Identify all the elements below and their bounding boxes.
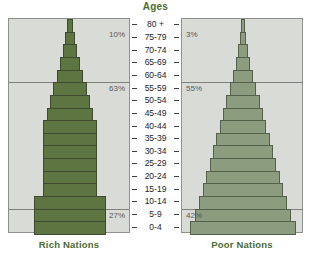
age-label-row: 75-79 bbox=[131, 31, 180, 43]
chart-title: Ages bbox=[0, 1, 311, 12]
bar-rich-10-14 bbox=[34, 196, 106, 210]
age-label-row: 65-69 bbox=[131, 56, 180, 68]
bar-poor-45-49 bbox=[223, 108, 263, 122]
caption-poor-nations: Poor Nations bbox=[181, 239, 303, 250]
bar-poor-25-29 bbox=[210, 158, 276, 172]
age-label-row: 10-14 bbox=[131, 195, 180, 207]
bar-rich-45-49 bbox=[47, 108, 94, 122]
bar-rich-15-19 bbox=[43, 183, 96, 197]
axis-tick-left bbox=[132, 126, 137, 127]
bar-rich-80 bbox=[67, 19, 73, 33]
bar-rich-75-79 bbox=[65, 32, 75, 46]
axis-tick-left bbox=[132, 75, 137, 76]
age-label: 10-14 bbox=[145, 196, 167, 206]
axis-tick-right bbox=[174, 214, 179, 215]
bar-poor-50-54 bbox=[226, 95, 259, 109]
bar-rich-35-39 bbox=[43, 133, 96, 147]
axis-tick-left bbox=[132, 189, 137, 190]
axis-tick-right bbox=[174, 88, 179, 89]
bar-rich-40-44 bbox=[43, 120, 96, 134]
percent-label-rich-top: 10% bbox=[109, 30, 125, 39]
axis-tick-right bbox=[174, 151, 179, 152]
age-label: 80 + bbox=[147, 19, 164, 29]
bar-poor-55-59 bbox=[230, 82, 257, 96]
population-pyramid-figure: Ages 10% 63% 27% 80 +75-7970-7465-6960-6… bbox=[0, 0, 311, 263]
axis-tick-right bbox=[174, 189, 179, 190]
axis-tick-left bbox=[132, 88, 137, 89]
age-label-row: 70-74 bbox=[131, 44, 180, 56]
bar-poor-65-69 bbox=[236, 57, 251, 71]
age-label: 35-39 bbox=[145, 133, 167, 143]
bar-poor-70-74 bbox=[238, 44, 248, 58]
bar-rich-65-69 bbox=[60, 57, 80, 71]
bar-poor-5-9 bbox=[195, 209, 291, 223]
age-label-row: 60-64 bbox=[131, 69, 180, 81]
age-label: 0-4 bbox=[149, 222, 161, 232]
bar-poor-60-64 bbox=[233, 70, 253, 84]
age-label: 20-24 bbox=[145, 171, 167, 181]
percent-label-rich-bottom: 27% bbox=[109, 211, 125, 220]
age-label: 60-64 bbox=[145, 70, 167, 80]
bar-poor-80 bbox=[241, 19, 245, 33]
age-label: 5-9 bbox=[149, 209, 161, 219]
bar-poor-10-14 bbox=[199, 196, 287, 210]
age-label: 75-79 bbox=[145, 32, 167, 42]
age-label-row: 15-19 bbox=[131, 183, 180, 195]
axis-tick-right bbox=[174, 126, 179, 127]
axis-tick-right bbox=[174, 50, 179, 51]
axis-tick-right bbox=[174, 201, 179, 202]
bar-rich-60-64 bbox=[57, 70, 84, 84]
bar-rich-30-34 bbox=[43, 145, 96, 159]
age-label-row: 20-24 bbox=[131, 170, 180, 182]
axis-tick-left bbox=[132, 62, 137, 63]
bar-rich-0-4 bbox=[34, 221, 106, 235]
axis-tick-right bbox=[174, 176, 179, 177]
axis-tick-left bbox=[132, 176, 137, 177]
caption-rich-nations: Rich Nations bbox=[8, 239, 130, 250]
panel-rich-nations: 10% 63% 27% bbox=[8, 18, 130, 233]
axis-tick-left bbox=[132, 50, 137, 51]
bar-rich-5-9 bbox=[34, 209, 106, 223]
bar-rich-70-74 bbox=[63, 44, 78, 58]
bar-poor-15-19 bbox=[203, 183, 284, 197]
bar-rich-20-24 bbox=[43, 171, 96, 185]
age-label: 30-34 bbox=[145, 146, 167, 156]
bar-poor-35-39 bbox=[216, 133, 269, 147]
age-label-row: 50-54 bbox=[131, 94, 180, 106]
bar-poor-30-34 bbox=[213, 145, 273, 159]
axis-tick-right bbox=[174, 75, 179, 76]
age-label-row: 30-34 bbox=[131, 145, 180, 157]
bar-rich-55-59 bbox=[53, 82, 86, 96]
bars-rich-nations bbox=[9, 19, 129, 232]
axis-tick-right bbox=[174, 163, 179, 164]
bars-poor-nations bbox=[182, 19, 302, 232]
age-label: 40-44 bbox=[145, 121, 167, 131]
age-label-row: 80 + bbox=[131, 18, 180, 30]
age-label: 55-59 bbox=[145, 83, 167, 93]
age-label: 25-29 bbox=[145, 158, 167, 168]
axis-tick-left bbox=[132, 163, 137, 164]
bar-poor-75-79 bbox=[240, 32, 246, 46]
panel-poor-nations: 3% 55% 42% bbox=[181, 18, 303, 233]
bar-poor-20-24 bbox=[206, 171, 280, 185]
age-label-row: 45-49 bbox=[131, 107, 180, 119]
percent-label-poor-bottom: 42% bbox=[186, 211, 202, 220]
axis-tick-left bbox=[132, 151, 137, 152]
percent-label-poor-middle: 55% bbox=[186, 84, 202, 93]
age-label: 70-74 bbox=[145, 45, 167, 55]
axis-tick-right bbox=[174, 62, 179, 63]
axis-tick-left bbox=[132, 214, 137, 215]
percent-label-rich-middle: 63% bbox=[109, 84, 125, 93]
age-label: 15-19 bbox=[145, 184, 167, 194]
axis-tick-right bbox=[174, 24, 179, 25]
age-label-row: 5-9 bbox=[131, 208, 180, 220]
age-label-row: 40-44 bbox=[131, 120, 180, 132]
axis-tick-left bbox=[132, 227, 137, 228]
age-label-row: 55-59 bbox=[131, 82, 180, 94]
age-label-row: 35-39 bbox=[131, 132, 180, 144]
axis-tick-right bbox=[174, 37, 179, 38]
bar-poor-0-4 bbox=[190, 221, 296, 235]
axis-tick-right bbox=[174, 227, 179, 228]
axis-tick-left bbox=[132, 24, 137, 25]
bar-rich-50-54 bbox=[50, 95, 90, 109]
